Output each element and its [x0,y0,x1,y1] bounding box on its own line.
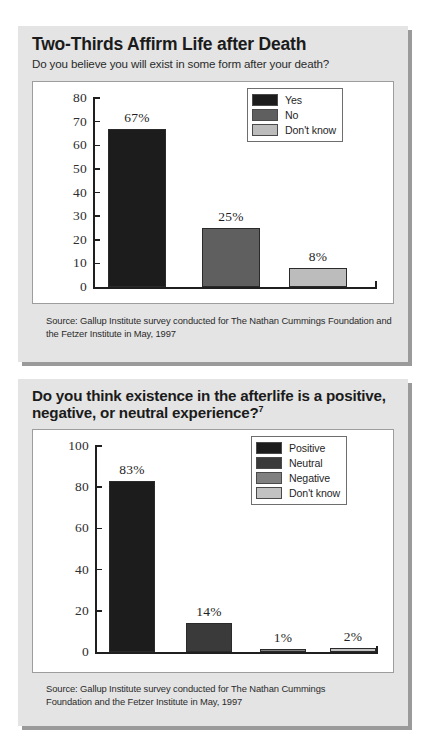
legend-label: Positive [289,442,325,454]
bar-neutral [186,623,232,652]
y-axis-tick [93,192,100,194]
plot-frame-bottom: 02040608010083%14%1%2% PositiveNeutralNe… [32,429,394,673]
page-title-2: Do you think existence in the afterlife … [32,387,400,421]
y-axis-line [93,98,95,289]
bar-value-label: 8% [309,249,327,265]
legend-swatch [256,487,282,499]
legend-swatch [252,109,278,121]
y-axis-label: 0 [41,279,87,295]
y-axis-tick [93,145,100,147]
bar-value-label: 25% [218,209,243,225]
y-axis-label: 40 [41,185,87,201]
legend-item: Don't know [252,123,336,137]
y-axis-tick [95,486,102,488]
y-axis-tick [95,610,102,612]
chart-legend-top: YesNoDon't know [247,88,343,142]
y-axis-label: 60 [41,137,87,153]
legend-item: Positive [256,441,340,455]
chart-legend-bottom: PositiveNeutralNegativeDon't know [251,436,347,505]
legend-swatch [256,442,282,454]
source-caption-2: Source: Gallup Institute survey conducte… [46,682,366,709]
bar-no [202,228,260,287]
y-axis-label: 20 [43,603,89,619]
legend-label: Neutral [289,457,322,469]
legend-item: No [252,108,336,122]
y-axis-label: 10 [41,255,87,271]
legend-item: Negative [256,471,340,485]
bar-value-label: 83% [119,462,144,478]
legend-label: Don't know [289,487,340,499]
chart-panel-life-after-death: Two-Thirds Affirm Life after Death Do yo… [18,26,408,362]
legend-label: Yes [285,94,302,106]
y-axis-tick [93,263,100,265]
bar-negative [260,649,306,653]
legend-swatch [256,472,282,484]
y-axis-label: 0 [43,644,89,660]
y-axis-label: 40 [43,562,89,578]
legend-item: Neutral [256,456,340,470]
y-axis-tick [93,121,100,123]
y-axis-label: 20 [41,232,87,248]
y-axis-line [95,446,97,654]
legend-label: Don't know [285,124,336,136]
legend-label: No [285,109,298,121]
y-axis-label: 50 [41,161,87,177]
bar-value-label: 67% [124,110,149,126]
bar-yes [108,129,166,287]
y-axis-tick [95,528,102,530]
y-axis-tick [93,215,100,217]
x-axis-endcap [375,281,377,288]
chart-subtitle: Do you believe you will exist in some fo… [32,57,394,70]
x-axis-line [93,287,377,289]
x-axis-line [95,652,378,654]
y-axis-tick [93,168,100,170]
chart-title-text: Do you think existence in the afterlife … [32,387,386,421]
y-axis-tick [95,445,102,447]
legend-swatch [256,457,282,469]
y-axis-label: 60 [43,520,89,536]
bar-positive [109,481,155,652]
y-axis-label: 30 [41,208,87,224]
y-axis-label: 70 [41,114,87,130]
y-axis-label: 80 [43,479,89,495]
bar-value-label: 1% [274,630,292,646]
chart-panel-afterlife-experience: Do you think existence in the afterlife … [18,379,408,726]
bar-don-t-know [289,268,347,287]
legend-swatch [252,124,278,136]
bar-don-t-know [330,648,376,652]
legend-swatch [252,94,278,106]
legend-item: Don't know [256,486,340,500]
y-axis-label: 80 [41,90,87,106]
bar-value-label: 2% [344,629,362,645]
bar-value-label: 14% [196,604,221,620]
page-root: Two-Thirds Affirm Life after Death Do yo… [0,0,432,750]
x-axis-endcap [376,646,378,653]
page-title: Two-Thirds Affirm Life after Death [32,35,392,55]
legend-label: Negative [289,472,330,484]
y-axis-label: 100 [43,438,89,454]
legend-item: Yes [252,93,336,107]
source-caption: Source: Gallup Institute survey conducte… [46,314,398,341]
y-axis-tick [93,97,100,99]
y-axis-tick [95,569,102,571]
plot-frame-top: 0102030405060708067%25%8% YesNoDon't kno… [32,81,394,304]
footnote-marker: 7 [259,404,264,414]
y-axis-tick [93,239,100,241]
